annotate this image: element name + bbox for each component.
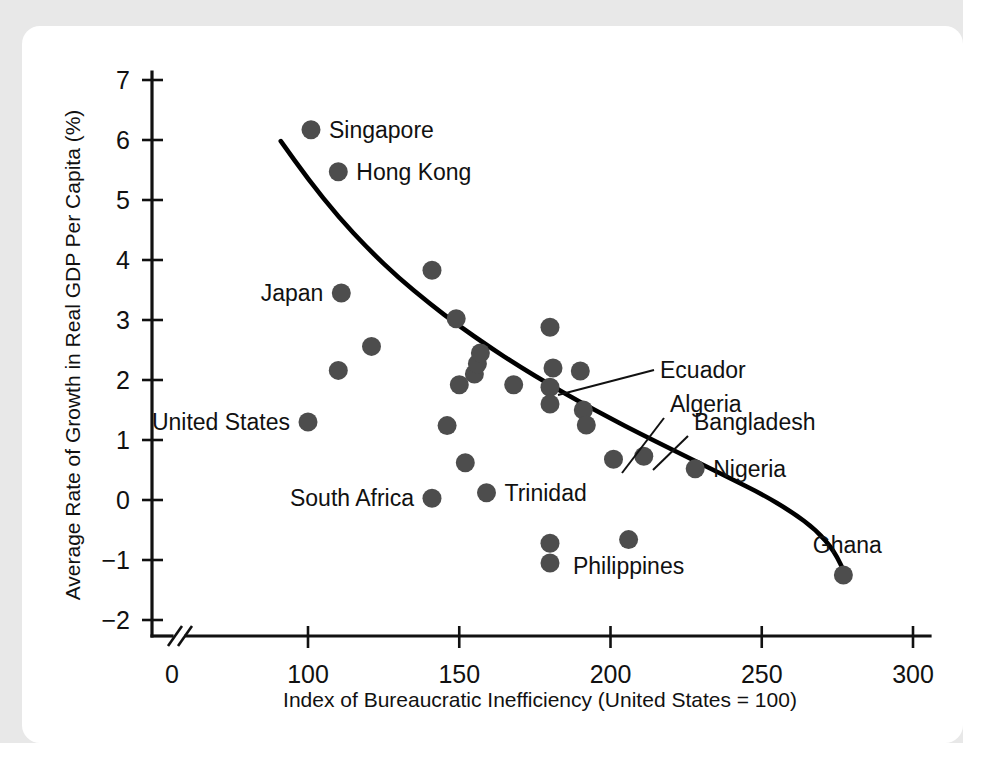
data-point-marker (834, 566, 853, 585)
x-axis-title: Index of Bureaucratic Inefficiency (Unit… (283, 688, 797, 711)
data-point-marker (504, 375, 523, 394)
data-point-marker (423, 489, 442, 508)
data-point-label: Trinidad (505, 480, 587, 506)
x-tick-label: 0 (165, 660, 179, 688)
data-point-marker (471, 344, 490, 363)
scatter-plot: −2−101234567 0100150200250300 SingaporeH… (0, 0, 1005, 775)
data-point-marker (329, 162, 348, 181)
data-point-label: South Africa (290, 485, 414, 511)
data-point-marker (541, 554, 560, 573)
data-point-marker (302, 120, 321, 139)
x-tick-label: 150 (438, 660, 480, 688)
data-point-marker (634, 447, 653, 466)
x-tick-label: 200 (590, 660, 632, 688)
y-tick-label: 0 (116, 486, 130, 514)
point-labels-layer: SingaporeHong KongJapanUnited StatesSout… (152, 117, 882, 579)
y-tick-label: −1 (101, 546, 130, 574)
axes (152, 72, 930, 646)
data-point-marker (299, 413, 318, 432)
data-point-marker (541, 395, 560, 414)
y-tick-label: 3 (116, 306, 130, 334)
y-axis-title: Average Rate of Growth in Real GDP Per C… (61, 110, 84, 601)
data-point-label: Bangladesh (694, 409, 816, 435)
data-points-layer (299, 120, 853, 584)
data-point-marker (447, 309, 466, 328)
data-point-label: United States (152, 409, 290, 435)
data-point-marker (329, 361, 348, 380)
data-point-marker (477, 483, 496, 502)
y-tick-label: 2 (116, 366, 130, 394)
data-point-marker (686, 459, 705, 478)
data-point-label: Nigeria (713, 456, 786, 482)
data-point-marker (604, 450, 623, 469)
data-point-marker (541, 378, 560, 397)
data-point-marker (362, 337, 381, 356)
fitted-trend-curve (281, 141, 847, 577)
y-tick-label: 1 (116, 426, 130, 454)
y-ticks: −2−101234567 (101, 66, 163, 634)
data-point-marker (423, 261, 442, 280)
data-point-label: Singapore (329, 117, 434, 143)
data-point-marker (619, 530, 638, 549)
y-tick-label: 6 (116, 126, 130, 154)
data-point-marker (541, 534, 560, 553)
data-point-label: Hong Kong (356, 159, 471, 185)
data-point-marker (332, 284, 351, 303)
data-point-marker (456, 453, 475, 472)
data-point-marker (544, 359, 563, 378)
data-point-label: Ghana (813, 532, 882, 558)
data-point-marker (438, 416, 457, 435)
data-point-label: Japan (261, 280, 324, 306)
data-point-label: Philippines (573, 553, 684, 579)
y-tick-label: −2 (101, 606, 130, 634)
data-point-marker (541, 318, 560, 337)
x-tick-label: 250 (741, 660, 783, 688)
x-tick-label: 300 (892, 660, 934, 688)
data-point-label: Ecuador (660, 357, 746, 383)
y-tick-label: 7 (116, 66, 130, 94)
data-point-marker (571, 362, 590, 381)
y-tick-label: 5 (116, 186, 130, 214)
figure-root: −2−101234567 0100150200250300 SingaporeH… (0, 0, 1005, 775)
x-tick-label: 100 (287, 660, 329, 688)
y-tick-label: 4 (116, 246, 130, 274)
data-point-marker (577, 416, 596, 435)
